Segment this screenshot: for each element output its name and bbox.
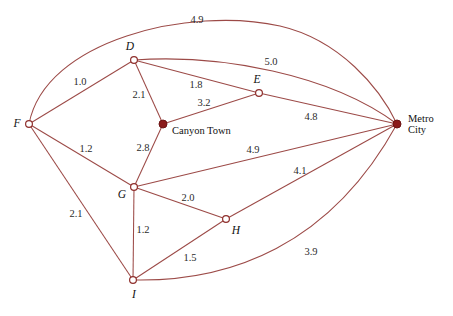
edge-f-d (29, 60, 134, 124)
edge-weight-h-metrocity: 4.1 (293, 165, 306, 176)
node-f[interactable] (26, 121, 33, 128)
edge-i-metrocity (133, 124, 397, 280)
edge-g-h (134, 187, 226, 219)
node-label-e: E (253, 73, 260, 85)
edge-canyontown-g (134, 124, 163, 187)
node-label-canyontown: Canyon Town (172, 125, 231, 136)
node-label-metrocity: MetroCity (408, 113, 434, 135)
node-canyontown[interactable] (159, 120, 167, 128)
nodes-layer (26, 57, 401, 284)
graph-canvas (0, 0, 453, 316)
node-label-f: F (13, 117, 20, 129)
edge-d-metrocity (134, 59, 397, 124)
node-h[interactable] (223, 216, 230, 223)
graph-diagram: 4.95.01.02.11.83.24.81.22.84.94.12.12.01… (0, 0, 453, 316)
node-label-line-2: City (408, 124, 434, 135)
edge-g-i (133, 187, 134, 280)
edge-weight-g-h: 2.0 (181, 192, 194, 203)
node-metrocity[interactable] (393, 120, 401, 128)
edge-canyontown-e (163, 93, 259, 124)
node-label-i: I (132, 288, 136, 300)
edge-weight-d-e: 1.8 (189, 79, 202, 90)
edge-weight-f-metrocity: 4.9 (190, 14, 203, 25)
node-e[interactable] (256, 90, 263, 97)
edge-weight-canyontown-g: 2.8 (136, 142, 149, 153)
node-label-line-1: Metro (408, 113, 434, 124)
edge-weight-i-h: 1.5 (183, 252, 196, 263)
node-label-g: G (118, 188, 126, 200)
edge-weight-i-metrocity: 3.9 (304, 246, 317, 257)
edge-weight-g-i: 1.2 (136, 224, 149, 235)
edge-weight-d-canyontown: 2.1 (132, 89, 145, 100)
node-i[interactable] (130, 277, 137, 284)
edge-f-g (29, 124, 134, 187)
edge-weight-e-metrocity: 4.8 (304, 111, 317, 122)
edge-weight-canyontown-e: 3.2 (197, 97, 210, 108)
node-d[interactable] (131, 57, 138, 64)
edge-weight-g-metrocity: 4.9 (246, 144, 259, 155)
edge-weight-f-g: 1.2 (79, 143, 92, 154)
node-label-d: D (126, 40, 134, 52)
edge-e-metrocity (259, 93, 397, 124)
edge-f-metrocity (29, 20, 397, 124)
edge-weight-d-metrocity: 5.0 (264, 56, 277, 67)
node-g[interactable] (131, 184, 138, 191)
node-label-h: H (232, 224, 240, 236)
edge-h-metrocity (226, 124, 397, 219)
edge-weight-f-d: 1.0 (73, 76, 86, 87)
edge-weight-f-i: 2.1 (69, 208, 82, 219)
